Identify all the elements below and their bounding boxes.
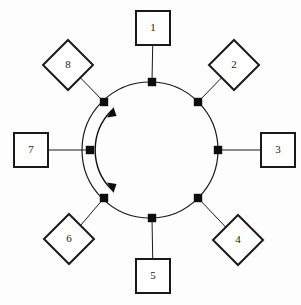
node-7-label: 7 [28, 143, 34, 155]
diagram-canvas: 12345678 [0, 0, 301, 305]
node-5-label: 5 [150, 269, 156, 281]
node-1-label: 1 [150, 21, 156, 33]
nodes-group: 12345678 [14, 11, 295, 293]
ring-tap-node-5[interactable] [148, 214, 156, 222]
ring-tap-node-6[interactable] [100, 194, 108, 202]
node-3-label: 3 [275, 143, 281, 155]
flow-arc-path [95, 110, 112, 190]
node-6-label: 6 [66, 232, 72, 244]
node-8-label: 8 [65, 58, 71, 70]
bidirectional-flow-arrow [95, 107, 116, 193]
ring-tap-node-8[interactable] [100, 98, 108, 106]
ring-tap-node-1[interactable] [148, 78, 156, 86]
ring-tap-markers [86, 78, 222, 222]
flow-arrow-head-down [107, 183, 117, 194]
ring-topology-diagram: 12345678 [0, 0, 301, 305]
node-2-label: 2 [231, 58, 237, 70]
ring-tap-node-7[interactable] [86, 146, 94, 154]
ring-tap-node-3[interactable] [214, 146, 222, 154]
ring-tap-node-2[interactable] [194, 98, 202, 106]
flow-arrow-head-up [107, 107, 117, 118]
ring-tap-node-4[interactable] [194, 194, 202, 202]
node-4-label: 4 [235, 233, 241, 245]
